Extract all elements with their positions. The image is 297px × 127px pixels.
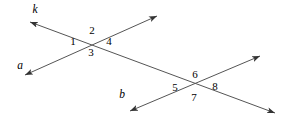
angle-label-4: 4 — [106, 36, 112, 47]
line-b — [130, 56, 260, 111]
angle-label-3: 3 — [88, 47, 94, 58]
diagram-canvas — [0, 0, 297, 127]
lines-group — [25, 16, 275, 113]
line-label-a: a — [17, 60, 23, 72]
angle-label-1: 1 — [70, 36, 76, 47]
angle-label-7: 7 — [191, 92, 197, 103]
line-label-b: b — [119, 89, 125, 101]
geometry-diagram: kab12435687 — [0, 0, 297, 127]
angle-label-8: 8 — [212, 81, 218, 92]
angle-label-2: 2 — [89, 25, 95, 36]
line-label-k: k — [32, 4, 37, 16]
angle-label-5: 5 — [172, 82, 178, 93]
line-k — [30, 22, 275, 113]
angle-label-6: 6 — [192, 69, 198, 80]
